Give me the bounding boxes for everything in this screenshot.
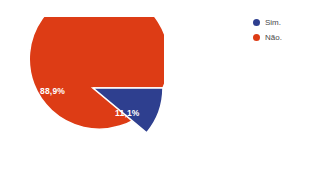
slice-label-sim: 11,1% [115,108,140,118]
circle-marker-icon-nao [253,34,260,41]
legend-item-sim[interactable]: Sim. [253,17,307,28]
legend-label-sim: Sim. [265,17,281,28]
legend-item-nao[interactable]: Não. [253,32,307,43]
pie-chart: 88,9% 11,1% Sim. Não. [0,0,309,172]
chart-legend: Sim. Não. [253,17,307,47]
pie-svg: 88,9% 11,1% [22,17,164,159]
circle-marker-icon-sim [253,19,260,26]
legend-label-nao: Não. [265,32,282,43]
slice-label-nao: 88,9% [40,86,65,96]
pie-plot-area: 88,9% 11,1% [22,17,164,159]
